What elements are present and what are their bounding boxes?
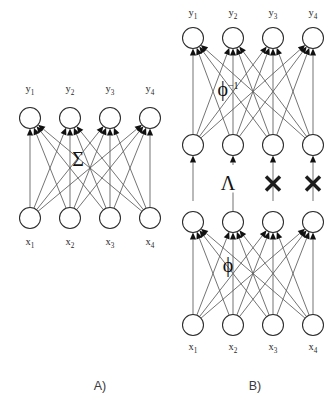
panel-caption-a: A) <box>94 379 107 393</box>
hidden-lower-node-3 <box>263 212 284 233</box>
output-label-y3: y3 <box>106 83 115 97</box>
edge-b-lo-3-2-line <box>279 238 309 315</box>
edge-b-lo-2-0-line <box>204 236 267 317</box>
edge-b-lo-2-2-arrowhead <box>270 233 276 240</box>
edge-b-lo-0-3-line <box>201 233 300 318</box>
output-label-y4: y4 <box>309 7 318 21</box>
edge-a-1-3-line <box>77 132 140 210</box>
edge-b-hi-3-2-line <box>279 54 309 135</box>
edge-b-lo-1-1-arrowhead <box>230 233 236 240</box>
input-node-x1 <box>20 208 41 229</box>
panel-a: y1x1y2x2y3x3y4x4Σ <box>20 83 161 250</box>
edge-a-0-1-line <box>34 134 64 208</box>
neural-network-diagram: y1x1y2x2y3x3y4x4Σ Λy1x1y2x2y3x3y4x4ϕ−1ϕ … <box>0 0 332 417</box>
input-node-x2 <box>60 208 81 229</box>
edge-a-2-3-line <box>114 134 144 208</box>
edge-a-0-2-line <box>37 132 100 210</box>
hidden-upper-node-4 <box>303 135 324 156</box>
output-node-y3 <box>263 28 284 49</box>
edge-b-hi-3-1-line <box>243 52 306 137</box>
edge-a-1-1-arrowhead <box>67 129 73 136</box>
input-label-x3: x3 <box>106 236 115 250</box>
panel-caption-b: B) <box>249 379 262 393</box>
output-label-y2: y2 <box>66 83 75 97</box>
input-label-x4: x4 <box>146 236 155 250</box>
panel-b: Λy1x1y2x2y3x3y4x4ϕ−1ϕ <box>183 7 324 355</box>
output-node-y4 <box>303 28 324 49</box>
edge-b-hi-3-3-arrowhead <box>310 49 316 56</box>
edge-a-3-3-arrowhead <box>147 129 153 136</box>
hidden-lower-node-4 <box>303 212 324 233</box>
input-label-x2: x2 <box>229 341 238 355</box>
output-node-y2 <box>60 108 81 129</box>
output-label-y2: y2 <box>229 7 238 21</box>
channel-b-1-arrowhead <box>190 156 196 163</box>
input-node-x4 <box>303 315 324 336</box>
input-node-x1 <box>183 315 204 336</box>
operator-symbol-sigma: Σ <box>72 148 84 170</box>
input-node-x3 <box>263 315 284 336</box>
hidden-upper-node-1 <box>183 135 204 156</box>
panel-captions: A)B) <box>94 379 262 393</box>
hidden-upper-node-2 <box>223 135 244 156</box>
output-node-y1 <box>20 108 41 129</box>
edge-b-hi-0-0-arrowhead <box>190 49 196 56</box>
edge-a-3-0-line <box>43 129 141 211</box>
edge-b-lo-1-3-line <box>239 236 302 317</box>
edge-b-hi-0-1-arrowhead <box>224 48 230 56</box>
input-label-x1: x1 <box>189 341 198 355</box>
edge-a-0-3-line <box>38 129 136 211</box>
figure-root: y1x1y2x2y3x3y4x4Σ Λy1x1y2x2y3x3y4x4ϕ−1ϕ … <box>0 0 332 417</box>
input-label-x2: x2 <box>66 236 75 250</box>
channel-b-3-arrowhead <box>270 156 276 163</box>
edge-b-hi-3-2-arrowhead <box>276 48 282 56</box>
output-node-y2 <box>223 28 244 49</box>
edge-b-hi-0-3-line <box>201 50 300 138</box>
input-label-x3: x3 <box>269 341 278 355</box>
input-node-x2 <box>223 315 244 336</box>
input-node-x4 <box>140 208 161 229</box>
edge-a-2-2-arrowhead <box>107 129 113 136</box>
edge-b-lo-3-1-line <box>244 236 307 317</box>
edge-b-hi-1-3-line <box>239 52 302 137</box>
channel-b-4-arrowhead <box>310 156 316 163</box>
hidden-lower-node-1 <box>183 212 204 233</box>
edge-b-lo-3-0-line <box>206 233 305 318</box>
input-label-x1: x1 <box>26 236 35 250</box>
edge-a-3-2-line <box>116 134 146 208</box>
edge-b-hi-2-2-arrowhead <box>270 49 276 56</box>
edge-a-3-1-line <box>81 132 144 210</box>
input-node-x3 <box>100 208 121 229</box>
output-label-y3: y3 <box>269 7 278 21</box>
output-node-y3 <box>100 108 121 129</box>
edge-a-2-0-line <box>41 132 104 210</box>
hidden-lower-node-2 <box>223 212 244 233</box>
output-node-y1 <box>183 28 204 49</box>
edge-b-lo-0-1-arrowhead <box>224 232 230 240</box>
input-label-x4: x4 <box>309 341 318 355</box>
output-node-y4 <box>140 108 161 129</box>
edge-a-1-0-line <box>36 134 66 208</box>
edge-a-1-2-line <box>74 134 104 208</box>
output-label-y4: y4 <box>146 83 155 97</box>
hidden-upper-node-3 <box>263 135 284 156</box>
edge-b-lo-0-1-line <box>197 238 227 315</box>
edge-a-0-0-arrowhead <box>27 129 33 136</box>
output-label-y1: y1 <box>26 83 35 97</box>
edge-a-2-1-line <box>76 134 106 208</box>
channel-b-2-upper-arrowhead <box>230 156 236 163</box>
operator-symbol-phi: ϕ <box>223 254 234 277</box>
operator-symbol-lambda: Λ <box>221 172 236 194</box>
edge-b-hi-2-0-line <box>203 52 266 137</box>
edge-b-lo-0-0-arrowhead <box>190 233 196 240</box>
edge-b-lo-3-2-arrowhead <box>276 232 282 240</box>
edge-b-lo-3-3-arrowhead <box>310 233 316 240</box>
output-label-y1: y1 <box>189 7 198 21</box>
edge-b-hi-1-1-arrowhead <box>230 49 236 56</box>
